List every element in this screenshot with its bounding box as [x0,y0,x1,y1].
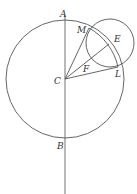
label-M: M [76,25,87,35]
label-A: A [59,9,67,19]
label-C: C [54,76,61,86]
label-L: L [114,69,121,79]
label-F: F [82,64,90,74]
label-B: B [56,141,64,151]
label-E: E [113,34,121,44]
small-circle [86,19,134,67]
geometry-diagram: A M E F C L B [0,0,137,194]
